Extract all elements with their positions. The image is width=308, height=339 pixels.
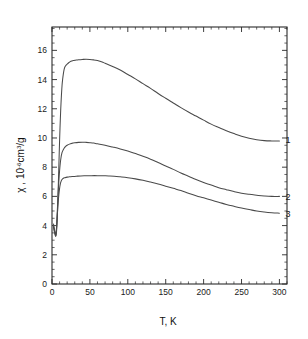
y-axis-prefix: χ , 10 (15, 168, 26, 193)
y-tick-label: 4 (42, 221, 47, 231)
y-tick-label: 12 (38, 104, 48, 114)
curve-label-3: 3 (285, 209, 290, 219)
x-tick-label: 300 (272, 287, 286, 297)
x-tick-label: 100 (121, 287, 135, 297)
curve-label-1: 1 (285, 135, 290, 145)
x-tick-label: 0 (50, 287, 55, 297)
x-tick-label: 250 (234, 287, 248, 297)
y-tick-label: 10 (38, 133, 48, 143)
x-tick-label: 150 (159, 287, 173, 297)
y-axis-unit: cm (15, 149, 26, 162)
y-tick-label: 16 (38, 45, 48, 55)
y-tick-label: 8 (42, 162, 47, 172)
curve-label-2: 2 (285, 192, 290, 202)
y-axis-unit-tail: /g (15, 137, 26, 145)
susceptibility-vs-temperature-plot: 050100150200250300 0246810121416 123 T, … (0, 0, 308, 339)
y-tick-label: 0 (42, 279, 47, 289)
y-tick-label: 6 (42, 191, 47, 201)
y-tick-label: 2 (42, 250, 47, 260)
x-axis-title: T, K (159, 316, 177, 327)
x-tick-label: 50 (85, 287, 95, 297)
y-tick-label: 14 (38, 75, 48, 85)
chart-figure: 050100150200250300 0246810121416 123 T, … (0, 0, 308, 339)
x-tick-label: 200 (197, 287, 211, 297)
